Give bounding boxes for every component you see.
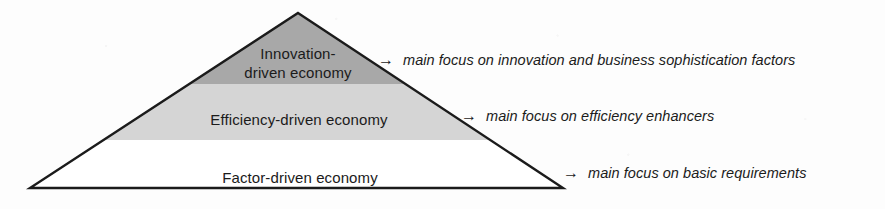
arrow-right-icon: → [378,52,394,68]
annotation-innovation: → main focus on innovation and business … [378,52,795,68]
annotation-innovation-text: main focus on innovation and business so… [403,52,795,68]
annotation-efficiency: → main focus on efficiency enhancers [461,108,714,124]
annotation-factor-text: main focus on basic requirements [588,165,806,181]
annotation-factor: → main focus on basic requirements [563,165,806,181]
tier-label-innovation-line-2: driven economy [244,63,351,82]
tier-label-factor: Factor-driven economy [222,168,378,187]
tier-label-efficiency: Efficiency-driven economy [210,110,387,129]
tier-band-innovation [0,0,885,84]
arrow-right-icon: → [461,108,477,124]
annotation-efficiency-text: main focus on efficiency enhancers [486,108,714,124]
arrow-right-icon: → [563,165,579,181]
tier-label-innovation: Innovation- driven economy [244,44,351,82]
pyramid-diagram: Innovation- driven economy Efficiency-dr… [0,0,885,209]
tier-label-innovation-line-1: Innovation- [244,44,351,63]
tier-band-efficiency [0,84,885,140]
